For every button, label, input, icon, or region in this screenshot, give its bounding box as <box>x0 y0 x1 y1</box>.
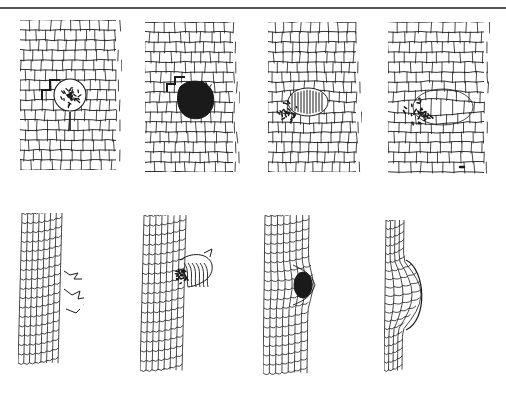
panel-6-side-view-ruptured-tuft <box>140 215 216 375</box>
brick-sheet-illustration <box>268 22 362 172</box>
top-rule <box>0 7 506 9</box>
panel-1-brick-sheet-circular-lesion <box>20 20 122 170</box>
panel-5-side-view-torn-edge <box>18 213 84 373</box>
panel-2-brick-sheet-dark-blot <box>145 22 240 172</box>
side-view-illustration <box>140 215 216 375</box>
brick-sheet-illustration <box>20 20 122 170</box>
panel-8-side-view-smooth-bulge <box>384 220 428 376</box>
brick-sheet-illustration <box>388 22 490 174</box>
brick-sheet-illustration <box>145 22 240 172</box>
panel-7-side-view-dark-nodule <box>263 215 321 375</box>
panel-4-brick-sheet-healed-oval <box>388 22 490 174</box>
panel-3-brick-sheet-striated-oval <box>268 22 362 172</box>
side-view-illustration <box>263 215 321 375</box>
side-view-illustration <box>18 213 84 373</box>
side-view-illustration <box>384 220 428 376</box>
